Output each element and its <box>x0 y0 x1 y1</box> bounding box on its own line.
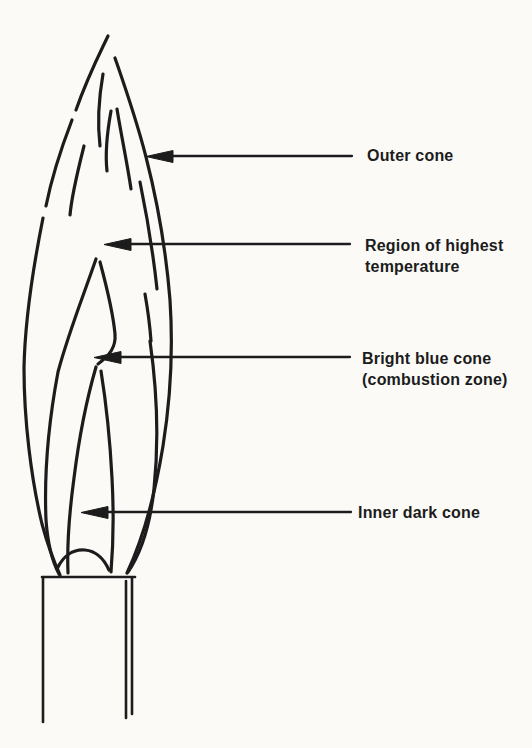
arrow-inner-dark-cone <box>81 507 351 519</box>
label-outer-cone: Outer cone <box>367 145 453 166</box>
label-line: temperature <box>365 256 504 277</box>
scanned-diagram-page: Outer cone Region of highest temperature… <box>0 0 532 748</box>
label-line: (combustion zone) <box>362 369 508 390</box>
label-bright-blue-cone: Bright blue cone (combustion zone) <box>362 348 508 390</box>
arrow-outer-cone <box>146 151 352 163</box>
label-line: Bright blue cone <box>362 348 508 369</box>
label-line: Inner dark cone <box>358 502 480 523</box>
burner-tube <box>42 577 135 722</box>
middle-cone-outline <box>46 259 116 574</box>
inner-dark-cone-arc <box>57 550 109 570</box>
label-line: Region of highest <box>365 235 504 256</box>
label-inner-dark-cone: Inner dark cone <box>358 502 480 523</box>
label-region-of-highest-temperature: Region of highest temperature <box>365 235 504 277</box>
arrow-region-of-highest-temperature <box>104 239 350 251</box>
flame-sketch <box>24 36 171 575</box>
arrow-bright-blue-cone <box>94 352 350 364</box>
bright-blue-cone-outline <box>68 367 113 573</box>
label-line: Outer cone <box>367 145 453 166</box>
